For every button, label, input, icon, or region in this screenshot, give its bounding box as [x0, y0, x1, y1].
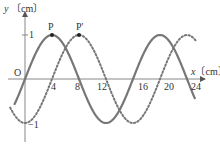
y-axis-label: y 〔cm〕 [3, 3, 43, 14]
label-p: P [48, 21, 54, 32]
x-tick-12: 12 [97, 81, 107, 92]
x-tick-4: 4 [51, 81, 56, 92]
x-tick-16: 16 [138, 81, 148, 92]
wave-chart: y 〔cm〕 x〔cm〕 O 1 −1 4 8 12 16 20 24 P P' [0, 0, 220, 148]
y-tick-1: 1 [29, 29, 34, 40]
point-p-prime [77, 33, 81, 37]
y-tick-minus-1: −1 [28, 119, 39, 130]
label-p-prime: P' [76, 21, 84, 32]
x-axis-label: x〔cm〕 [190, 66, 220, 77]
point-p [50, 33, 54, 37]
origin-label: O [14, 67, 21, 78]
x-tick-20: 20 [164, 81, 174, 92]
x-tick-24: 24 [191, 81, 201, 92]
x-tick-8: 8 [75, 81, 80, 92]
